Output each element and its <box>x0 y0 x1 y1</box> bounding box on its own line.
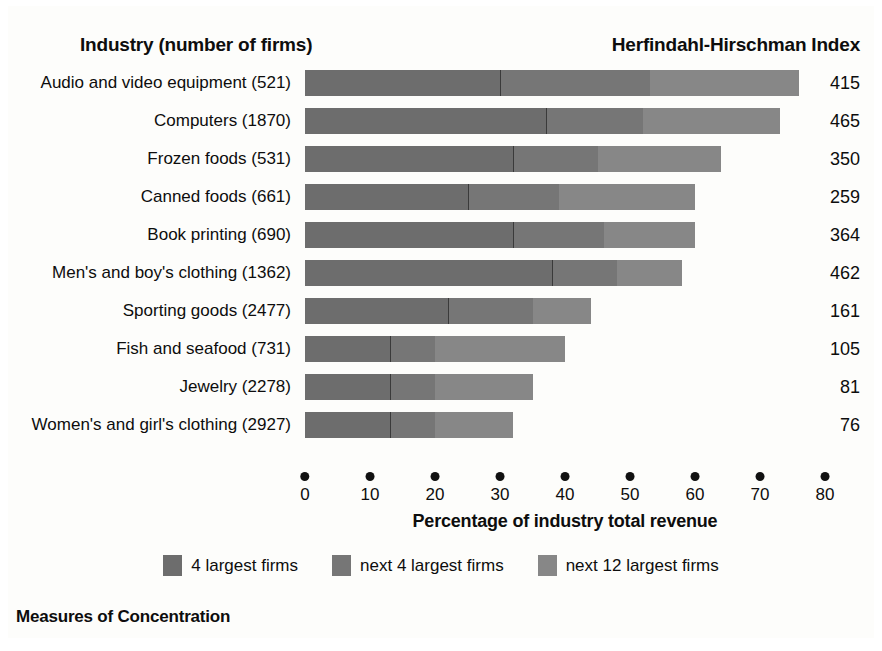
bar-segment <box>643 108 780 134</box>
chart-row: Frozen foods (531)350 <box>8 140 874 178</box>
bar-segment <box>513 146 598 172</box>
bar-segment <box>390 412 436 438</box>
row-label-industry: Audio and video equipment (521) <box>8 73 297 93</box>
bar-segment <box>533 298 592 324</box>
stacked-bar <box>305 146 721 172</box>
chart-row: Canned foods (661)259 <box>8 178 874 216</box>
chart-legend: 4 largest firmsnext 4 largest firmsnext … <box>8 555 874 576</box>
tick-dot-icon <box>301 472 310 481</box>
x-axis-tick-label: 80 <box>816 486 835 503</box>
bar-segment <box>305 260 552 286</box>
bar-segment <box>448 298 533 324</box>
legend-swatch <box>332 555 351 576</box>
row-label-industry: Book printing (690) <box>8 225 297 245</box>
stacked-bar <box>305 184 695 210</box>
stacked-bar <box>305 374 533 400</box>
bar-segment <box>305 336 390 362</box>
chart-row: Men's and boy's clothing (1362)462 <box>8 254 874 292</box>
stacked-bar <box>305 70 799 96</box>
stacked-bar <box>305 260 682 286</box>
bar-segment <box>435 336 565 362</box>
bar-segment <box>305 412 390 438</box>
row-label-industry: Computers (1870) <box>8 111 297 131</box>
x-axis-tick: 30 <box>491 472 510 503</box>
x-axis-tick: 10 <box>361 472 380 503</box>
x-axis-tick-label: 50 <box>621 486 640 503</box>
legend-label: next 12 largest firms <box>566 556 719 576</box>
column-header-industry: Industry (number of firms) <box>80 34 312 56</box>
legend-item: next 4 largest firms <box>332 555 504 576</box>
bar-segment <box>552 260 617 286</box>
chart-row: Sporting goods (2477)161 <box>8 292 874 330</box>
x-axis-tick-label: 0 <box>300 486 309 503</box>
tick-dot-icon <box>625 472 634 481</box>
bar-segment <box>305 146 513 172</box>
x-axis-tick: 40 <box>556 472 575 503</box>
x-axis-tick-label: 20 <box>426 486 445 503</box>
column-header-hhi: Herfindahl-Hirschman Index <box>612 34 860 56</box>
x-axis-tick-label: 30 <box>491 486 510 503</box>
chart-sheet: Industry (number of firms) Herfindahl-Hi… <box>8 6 874 638</box>
bar-segment <box>305 108 546 134</box>
chart-row: Computers (1870)465 <box>8 102 874 140</box>
hhi-value: 350 <box>800 149 860 170</box>
x-axis-tick: 60 <box>686 472 705 503</box>
chart-row: Women's and girl's clothing (2927)76 <box>8 406 874 444</box>
hhi-value: 465 <box>800 111 860 132</box>
bar-segment <box>604 222 695 248</box>
tick-dot-icon <box>560 472 569 481</box>
bar-segment <box>305 374 390 400</box>
bar-segment <box>468 184 559 210</box>
row-label-industry: Frozen foods (531) <box>8 149 297 169</box>
bar-segment <box>390 336 436 362</box>
x-axis-tick: 70 <box>751 472 770 503</box>
tick-dot-icon <box>430 472 439 481</box>
row-label-industry: Sporting goods (2477) <box>8 301 297 321</box>
bar-segment <box>513 222 604 248</box>
row-label-industry: Men's and boy's clothing (1362) <box>8 263 297 283</box>
stacked-bar <box>305 298 591 324</box>
hhi-value: 259 <box>800 187 860 208</box>
x-axis-tick: 20 <box>426 472 445 503</box>
tick-dot-icon <box>690 472 699 481</box>
stacked-bar <box>305 108 780 134</box>
x-axis-tick: 50 <box>621 472 640 503</box>
bar-segment <box>500 70 650 96</box>
bar-segment <box>435 374 533 400</box>
legend-item: next 12 largest firms <box>538 555 719 576</box>
bar-segment <box>435 412 513 438</box>
row-label-industry: Canned foods (661) <box>8 187 297 207</box>
chart-page: Industry (number of firms) Herfindahl-Hi… <box>0 0 882 651</box>
legend-swatch <box>163 555 182 576</box>
chart-row: Jewelry (2278)81 <box>8 368 874 406</box>
stacked-bar <box>305 336 565 362</box>
hhi-value: 76 <box>800 415 860 436</box>
x-axis-tick-label: 70 <box>751 486 770 503</box>
bar-segment <box>598 146 722 172</box>
figure-caption: Measures of Concentration <box>16 607 230 627</box>
bar-chart-plot-area: Audio and video equipment (521)415Comput… <box>8 64 874 464</box>
bar-segment <box>617 260 682 286</box>
tick-dot-icon <box>365 472 374 481</box>
x-axis-tick: 80 <box>816 472 835 503</box>
bar-segment <box>305 70 500 96</box>
legend-swatch <box>538 555 557 576</box>
x-axis-tick-label: 60 <box>686 486 705 503</box>
hhi-value: 364 <box>800 225 860 246</box>
x-axis-tick-label: 10 <box>361 486 380 503</box>
stacked-bar <box>305 412 513 438</box>
hhi-value: 81 <box>800 377 860 398</box>
x-axis-tick: 0 <box>300 472 309 503</box>
chart-row: Audio and video equipment (521)415 <box>8 64 874 102</box>
row-label-industry: Women's and girl's clothing (2927) <box>8 415 297 435</box>
bar-segment <box>650 70 800 96</box>
bar-segment <box>546 108 644 134</box>
legend-item: 4 largest firms <box>163 555 298 576</box>
row-label-industry: Jewelry (2278) <box>8 377 297 397</box>
x-axis-title: Percentage of industry total revenue <box>305 511 825 532</box>
bar-segment <box>305 298 448 324</box>
legend-label: 4 largest firms <box>191 556 298 576</box>
tick-dot-icon <box>820 472 829 481</box>
stacked-bar <box>305 222 695 248</box>
row-label-industry: Fish and seafood (731) <box>8 339 297 359</box>
